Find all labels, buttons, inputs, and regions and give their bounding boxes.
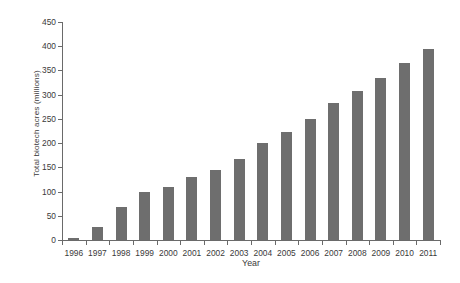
x-tick-mark xyxy=(133,241,134,245)
x-tick-mark xyxy=(416,241,417,245)
bar xyxy=(68,238,79,240)
x-tick-label: 1997 xyxy=(88,248,107,258)
y-tick-mark xyxy=(58,216,62,217)
x-tick-label: 2009 xyxy=(372,248,391,258)
y-tick-mark xyxy=(58,70,62,71)
y-tick-label: 200 xyxy=(42,138,56,148)
x-tick-mark xyxy=(440,241,441,245)
bar xyxy=(210,170,221,240)
bar xyxy=(305,119,316,240)
y-tick-label: 300 xyxy=(42,90,56,100)
x-tick-label: 2005 xyxy=(277,248,296,258)
bar xyxy=(116,207,127,240)
y-tick-mark xyxy=(58,22,62,23)
plot-area: 050100150200250300350400450 199619971998… xyxy=(62,22,440,240)
x-tick-mark xyxy=(275,241,276,245)
y-tick-label: 0 xyxy=(51,235,56,245)
y-tick-label: 150 xyxy=(42,162,56,172)
y-tick-label: 350 xyxy=(42,65,56,75)
y-tick-label: 50 xyxy=(47,211,56,221)
x-tick-label: 2000 xyxy=(159,248,178,258)
bar xyxy=(163,187,174,240)
x-tick-mark xyxy=(322,241,323,245)
x-tick-label: 1996 xyxy=(64,248,83,258)
bar xyxy=(399,63,410,240)
bar xyxy=(352,91,363,240)
x-tick-label: 1998 xyxy=(112,248,131,258)
y-tick-mark xyxy=(58,167,62,168)
y-tick-mark xyxy=(58,119,62,120)
x-tick-label: 1999 xyxy=(135,248,154,258)
x-tick-label: 2003 xyxy=(230,248,249,258)
bar xyxy=(423,49,434,240)
x-tick-mark xyxy=(369,241,370,245)
y-tick-mark xyxy=(58,192,62,193)
y-tick-mark xyxy=(58,46,62,47)
x-tick-label: 2011 xyxy=(419,248,437,258)
bar-chart-figure: Total biotech acres (millions) 050100150… xyxy=(0,0,460,283)
y-tick-label: 400 xyxy=(42,41,56,51)
x-tick-mark xyxy=(157,241,158,245)
bar xyxy=(257,143,268,240)
x-tick-mark xyxy=(109,241,110,245)
bar xyxy=(234,159,245,240)
bar xyxy=(281,132,292,240)
x-tick-label: 2001 xyxy=(183,248,202,258)
y-tick-label: 450 xyxy=(42,17,56,27)
bar xyxy=(92,227,103,240)
x-tick-label: 2007 xyxy=(324,248,343,258)
x-tick-mark xyxy=(393,241,394,245)
x-tick-label: 2008 xyxy=(348,248,367,258)
x-tick-mark xyxy=(180,241,181,245)
x-tick-mark xyxy=(62,241,63,245)
bar xyxy=(139,192,150,240)
x-tick-mark xyxy=(346,241,347,245)
y-tick-mark xyxy=(58,95,62,96)
x-tick-mark xyxy=(227,241,228,245)
x-tick-mark xyxy=(298,241,299,245)
bar xyxy=(328,103,339,240)
y-axis-title: Total biotech acres (millions) xyxy=(32,24,41,224)
x-axis-title: Year xyxy=(62,258,440,268)
x-tick-label: 2004 xyxy=(253,248,272,258)
y-tick-mark xyxy=(58,143,62,144)
y-axis-line xyxy=(62,22,63,241)
x-tick-mark xyxy=(204,241,205,245)
x-tick-mark xyxy=(86,241,87,245)
x-tick-mark xyxy=(251,241,252,245)
x-tick-label: 2002 xyxy=(206,248,225,258)
x-tick-label: 2010 xyxy=(395,248,414,258)
x-tick-label: 2006 xyxy=(301,248,320,258)
y-tick-label: 100 xyxy=(42,187,56,197)
bar xyxy=(186,177,197,240)
y-tick-label: 250 xyxy=(42,114,56,124)
bar xyxy=(375,78,386,240)
